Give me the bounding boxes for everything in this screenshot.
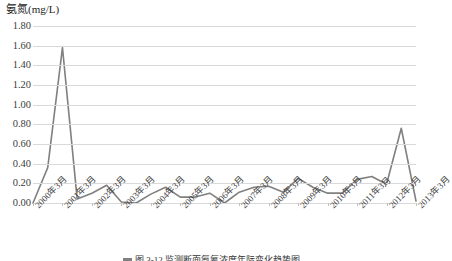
gridline [33, 105, 416, 106]
x-axis-tick-labels: 2000年3月2001年3月2002年3月2003年3月2004年3月2005年… [33, 203, 416, 249]
y-axis-title: 氨氮(mg/L) [6, 2, 59, 16]
y-axis-tick-label: 0.20 [1, 178, 31, 188]
gridline [33, 65, 416, 66]
gridline [33, 46, 416, 47]
gridline [33, 144, 416, 145]
caption-text: 图 3-12 监测断面氨氮浓度年际变化趋势图 [135, 255, 300, 261]
gridline [33, 164, 416, 165]
gridline [33, 85, 416, 86]
y-axis-tick-label: 1.00 [1, 100, 31, 110]
y-axis-tick-label: 0.80 [1, 119, 31, 129]
y-axis-tick-label: 0.60 [1, 139, 31, 149]
y-axis-tick-label: 1.20 [1, 80, 31, 90]
gridline [33, 124, 416, 125]
gridline [33, 26, 416, 27]
figure-caption: 图 3-12 监测断面氨氮浓度年际变化趋势图 [0, 253, 423, 261]
y-axis-tick-label: 1.80 [1, 21, 31, 31]
y-axis-tick-label: 1.40 [1, 60, 31, 70]
y-axis-tick-label: 1.60 [1, 41, 31, 51]
y-axis-tick-label: 0.00 [1, 198, 31, 208]
y-axis-tick-labels: 1.801.601.401.201.000.800.600.400.200.00 [0, 26, 31, 203]
y-axis-tick-label: 0.40 [1, 159, 31, 169]
